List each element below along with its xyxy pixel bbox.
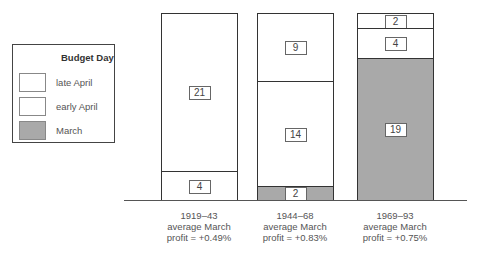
segment-march: 2 (258, 186, 333, 201)
legend-label: March (56, 125, 82, 136)
x-label-1944-68: 1944–68 average March profit = +0.83% (240, 210, 350, 243)
period-label: 1919–43 (144, 210, 254, 221)
segment-march: 19 (358, 58, 433, 201)
bar-1944-68: 9 14 2 (257, 13, 334, 201)
value-label: 2 (285, 187, 307, 201)
legend-label: late April (56, 77, 92, 88)
x-label-1969-93: 1969–93 average March profit = +0.75% (340, 210, 450, 243)
legend-title: Budget Day (61, 52, 114, 63)
chart-legend: Budget Day late April early April March (12, 44, 115, 143)
value-label: 4 (385, 37, 407, 51)
profit-label: profit = +0.49% (144, 232, 254, 243)
x-label-1919-43: 1919–43 average March profit = +0.49% (144, 210, 254, 243)
segment-early-april: 14 (258, 81, 333, 187)
value-label: 9 (285, 41, 307, 55)
segment-early-april: 4 (358, 28, 433, 59)
early-april-swatch (19, 97, 46, 116)
period-label: 1944–68 (240, 210, 350, 221)
legend-item-march: March (19, 121, 114, 140)
value-label: 14 (285, 128, 307, 142)
value-label: 2 (385, 15, 407, 29)
bar-1969-93: 2 4 19 (357, 13, 434, 201)
x-axis-baseline (124, 200, 467, 201)
value-label: 21 (189, 86, 211, 100)
bar-1919-43: 21 4 (161, 13, 238, 201)
profit-label: profit = +0.75% (340, 232, 450, 243)
segment-late-april: 9 (258, 14, 333, 82)
segment-early-april: 4 (162, 171, 237, 201)
average-label: average March (340, 221, 450, 232)
period-label: 1969–93 (340, 210, 450, 221)
legend-item-late-april: late April (19, 73, 114, 92)
march-swatch (19, 121, 46, 140)
average-label: average March (240, 221, 350, 232)
segment-late-april: 21 (162, 14, 237, 172)
value-label: 19 (385, 123, 407, 137)
legend-label: early April (56, 101, 98, 112)
profit-label: profit = +0.83% (240, 232, 350, 243)
average-label: average March (144, 221, 254, 232)
late-april-swatch (19, 73, 46, 92)
legend-item-early-april: early April (19, 97, 114, 116)
segment-late-april: 2 (358, 14, 433, 29)
value-label: 4 (189, 180, 211, 194)
